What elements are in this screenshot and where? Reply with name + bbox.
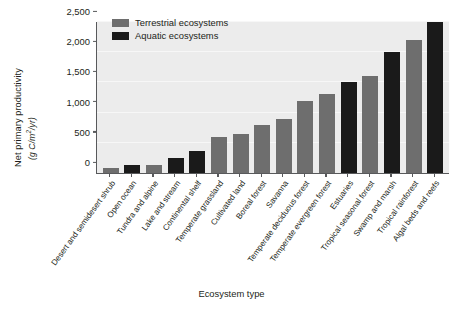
bar-slot bbox=[100, 22, 122, 173]
y-axis-units-head: (g C/m bbox=[27, 134, 37, 160]
bar-series bbox=[97, 22, 449, 173]
plot-area: 05001,0001,5002,0002,500 bbox=[96, 22, 449, 174]
bar-slot bbox=[360, 22, 382, 173]
y-axis-title-group: Net primary productivity (g C/m2/yr) bbox=[0, 0, 44, 180]
y-axis-tick-label: 2,500 bbox=[67, 6, 97, 17]
bar-slot bbox=[273, 22, 295, 173]
y-axis-tick-label: 0 bbox=[85, 157, 97, 168]
x-label-slot: Algal beds and reefs bbox=[423, 177, 445, 287]
y-axis-title: Net primary productivity bbox=[13, 68, 23, 167]
bar[interactable] bbox=[211, 137, 227, 173]
bar-slot bbox=[316, 22, 338, 173]
x-label-slot: Cultivated land bbox=[229, 177, 251, 287]
chart-figure: Net primary productivity (g C/m2/yr) 050… bbox=[0, 0, 463, 309]
bar[interactable] bbox=[168, 158, 184, 173]
bar[interactable] bbox=[233, 134, 249, 173]
y-axis-units-exponent: 2 bbox=[25, 130, 32, 134]
bar-slot bbox=[251, 22, 273, 173]
y-axis-tick-label: 1,000 bbox=[67, 96, 97, 107]
bar[interactable] bbox=[297, 101, 313, 173]
bar[interactable] bbox=[276, 119, 292, 173]
y-axis-tick-label: 500 bbox=[74, 126, 97, 137]
bar-slot bbox=[295, 22, 317, 173]
bar[interactable] bbox=[319, 94, 335, 173]
bar-slot bbox=[122, 22, 144, 173]
legend-swatch-icon bbox=[112, 32, 129, 40]
bar-slot bbox=[165, 22, 187, 173]
legend-swatch-icon bbox=[112, 19, 129, 27]
bar[interactable] bbox=[146, 165, 162, 173]
legend-label: Aquatic ecosystems bbox=[135, 30, 218, 41]
bar-slot bbox=[187, 22, 209, 173]
bar[interactable] bbox=[427, 22, 443, 173]
bar-slot bbox=[403, 22, 425, 173]
bar[interactable] bbox=[362, 76, 378, 173]
legend-item: Aquatic ecosystems bbox=[112, 30, 228, 41]
legend-label: Terrestrial ecosystems bbox=[135, 17, 228, 28]
bar[interactable] bbox=[384, 52, 400, 173]
bar[interactable] bbox=[254, 125, 270, 173]
y-axis-tick-label: 2,000 bbox=[67, 36, 97, 47]
bar-slot bbox=[230, 22, 252, 173]
bar[interactable] bbox=[406, 40, 422, 173]
legend: Terrestrial ecosystemsAquatic ecosystems bbox=[112, 17, 228, 41]
bar-slot bbox=[208, 22, 230, 173]
y-axis-units: (g C/m2/yr) bbox=[25, 117, 37, 160]
legend-item: Terrestrial ecosystems bbox=[112, 17, 228, 28]
x-axis-title: Ecosystem type bbox=[0, 288, 463, 299]
x-axis-labels: Desert and semidesert shrubOpen oceanTun… bbox=[96, 177, 448, 287]
bar-slot bbox=[143, 22, 165, 173]
bar-slot bbox=[338, 22, 360, 173]
y-axis-units-tail: /yr) bbox=[27, 117, 37, 130]
bar-slot bbox=[424, 22, 446, 173]
x-label-slot: Tundra and alpine bbox=[142, 177, 164, 287]
x-axis-tick-label: Desert and semidesert shrub bbox=[50, 179, 118, 267]
y-axis-tick-label: 1,500 bbox=[67, 66, 97, 77]
bar[interactable] bbox=[341, 82, 357, 173]
bar-slot bbox=[381, 22, 403, 173]
bar[interactable] bbox=[124, 165, 140, 173]
x-label-slot: Temperate grassland bbox=[207, 177, 229, 287]
bar[interactable] bbox=[189, 151, 205, 173]
